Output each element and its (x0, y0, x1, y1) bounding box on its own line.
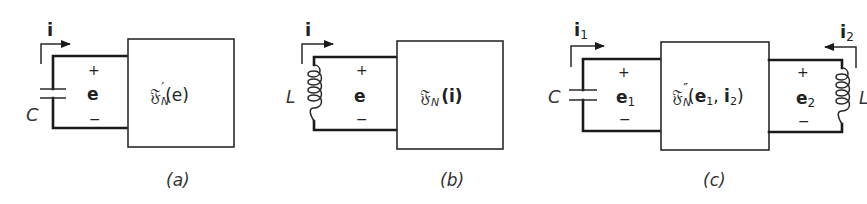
inductor-label: L (286, 87, 295, 107)
plus-sign: + (797, 64, 809, 80)
panel-caption: (a) (166, 170, 190, 190)
voltage-label: e1 (616, 87, 635, 109)
voltage-label: e (354, 86, 366, 106)
plus-sign: + (88, 62, 100, 78)
panel-c: i1 C + e1 − 𝔉N″(e1, i2) L i2 + e2 − (c) (548, 19, 867, 190)
circuit-figure: i C + e − 𝔉N′(e) (a) i L + e (0, 0, 867, 204)
minus-sign: − (798, 113, 810, 129)
current-arrow-icon (571, 46, 604, 67)
current-label: i1 (574, 19, 588, 42)
capacitor-label: C (548, 86, 561, 107)
plus-sign: + (356, 62, 368, 78)
current-label: i2 (840, 21, 854, 44)
current-arrow-icon (41, 44, 70, 64)
voltage-label: e (87, 84, 99, 104)
current-arrow-icon (302, 44, 333, 64)
minus-sign: − (89, 111, 101, 127)
panel-b: i L + e − 𝔉N(i) (b) (286, 19, 503, 190)
plus-sign: + (618, 64, 630, 80)
minus-sign: − (356, 111, 368, 127)
inductor-icon (836, 68, 850, 124)
current-label: i (305, 19, 311, 40)
panel-a: i C + e − 𝔉N′(e) (a) (26, 19, 234, 190)
current-label: i (47, 19, 53, 40)
inductor-icon (308, 65, 322, 121)
capacitor-icon (40, 89, 66, 98)
capacitor-label: C (26, 104, 39, 125)
minus-sign: − (619, 111, 631, 127)
inductor-label: L (859, 88, 867, 108)
voltage-label: e2 (796, 88, 815, 110)
panel-caption: (b) (440, 170, 464, 190)
network-function: 𝔉N(i) (420, 86, 463, 109)
panel-caption: (c) (703, 170, 726, 190)
capacitor-icon (569, 90, 597, 100)
current-arrow-icon (825, 47, 856, 68)
